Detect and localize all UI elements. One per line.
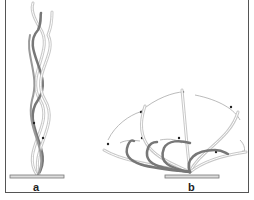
panel-a-strands xyxy=(29,3,52,175)
panel-b-strands xyxy=(104,90,246,172)
diagram-canvas xyxy=(0,0,254,200)
panel-b-base xyxy=(165,175,219,178)
panel-a-base xyxy=(10,175,64,178)
panel-b-label: b xyxy=(188,181,195,193)
panel-a-label: a xyxy=(33,181,39,193)
